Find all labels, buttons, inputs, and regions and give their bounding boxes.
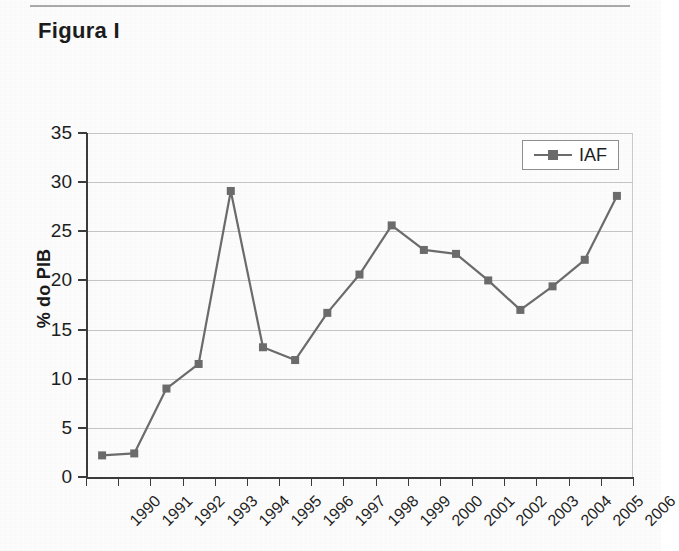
data-point-marker xyxy=(613,192,621,200)
series-line-iaf xyxy=(102,191,617,455)
data-point-marker xyxy=(323,309,331,317)
data-point-marker xyxy=(98,451,106,459)
series-markers-iaf xyxy=(98,187,621,459)
data-point-marker xyxy=(162,385,170,393)
data-point-marker xyxy=(484,276,492,284)
chart-legend: IAF xyxy=(522,140,619,170)
data-point-marker xyxy=(195,360,203,368)
data-point-marker xyxy=(227,187,235,195)
data-point-marker xyxy=(549,282,557,290)
data-point-marker xyxy=(516,306,524,314)
data-point-marker xyxy=(388,221,396,229)
legend-symbol-icon xyxy=(534,149,572,161)
data-point-marker xyxy=(420,246,428,254)
data-point-marker xyxy=(130,449,138,457)
legend-label-iaf: IAF xyxy=(579,145,607,166)
data-point-marker xyxy=(356,271,364,279)
data-point-marker xyxy=(291,356,299,364)
data-point-marker xyxy=(259,343,267,351)
data-point-marker xyxy=(581,256,589,264)
data-point-marker xyxy=(452,250,460,258)
